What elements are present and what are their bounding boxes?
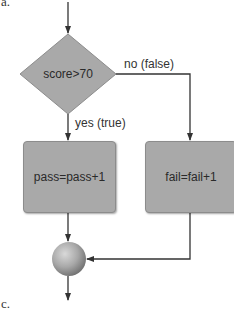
flowchart: a. c. score>70 no (false) yes (true) pas… — [0, 0, 234, 313]
false-branch-label: no (false) — [124, 57, 174, 71]
fail-to-merge-arrow — [87, 213, 190, 259]
pass-action-box: pass=pass+1 — [23, 141, 116, 213]
panel-label-c: c. — [1, 296, 10, 312]
decision-text: score>70 — [20, 67, 116, 81]
fail-action-box: fail=fail+1 — [145, 141, 234, 213]
true-branch-label: yes (true) — [75, 116, 126, 130]
merge-connector — [52, 242, 86, 276]
false-branch-arrow — [116, 74, 190, 140]
panel-label-a: a. — [1, 0, 10, 10]
pass-action-text: pass=pass+1 — [24, 170, 115, 184]
fail-action-text: fail=fail+1 — [146, 170, 234, 184]
